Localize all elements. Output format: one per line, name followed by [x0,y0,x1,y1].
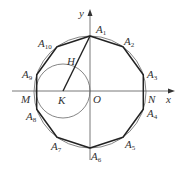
vertex-a1-label: A1 [95,23,107,37]
point-k-label: K [57,94,66,106]
vertex-a5-label: A5 [124,138,136,152]
diagram-canvas: y x O M N K H A1 A2 A3 A4 A5 A6 A7 A8 A9… [0,0,183,174]
vertex-a2-label: A2 [123,35,135,49]
vertex-a8-label: A8 [25,110,37,124]
vertex-a4-label: A4 [146,107,158,121]
point-h-label: H [66,55,76,67]
vertex-a7-label: A7 [50,140,62,154]
geometry-diagram: y x O M N K H A1 A2 A3 A4 A5 A6 A7 A8 A9… [0,0,183,174]
vertex-a9-label: A9 [21,68,33,82]
point-n-label: N [147,93,156,105]
origin-label: O [93,93,101,105]
vertex-a10-label: A10 [37,37,52,51]
x-axis-label: x [165,93,171,105]
y-axis-label: y [78,7,84,19]
y-axis-arrow-icon [88,9,93,16]
vertex-a3-label: A3 [146,68,158,82]
vertex-a6-label: A6 [90,150,102,164]
point-m-label: M [20,93,31,105]
